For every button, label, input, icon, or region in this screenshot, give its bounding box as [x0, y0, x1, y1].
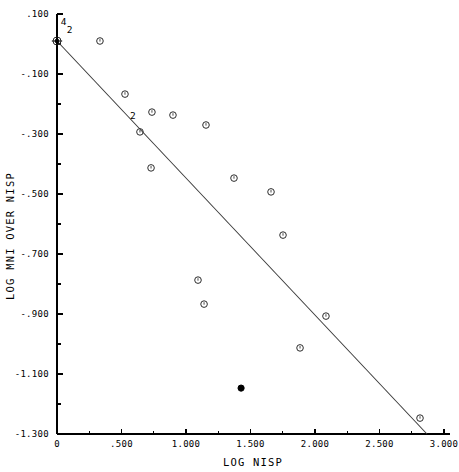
overlap-count-labels: 422 [61, 16, 136, 121]
x-axis-tick-label: 2.000 [301, 439, 330, 449]
y-axis-tick-label: -.900 [20, 309, 49, 319]
x-axis-ticks [57, 429, 444, 435]
y-axis-tick-label: -1.300 [15, 429, 49, 439]
y-axis-tick-label: -.500 [20, 189, 49, 199]
overlap-count-label: 2 [130, 110, 136, 121]
y-axis-ticks [57, 14, 63, 434]
data-point-series [52, 36, 424, 422]
fit-line-segment [57, 41, 427, 434]
y-axis-tick-label: -.700 [20, 249, 49, 259]
x-axis-tick-label: 0 [54, 439, 60, 449]
x-axis-tick-label: 1.000 [172, 439, 201, 449]
y-axis-tick-label: -1.100 [15, 369, 49, 379]
axes [57, 14, 450, 434]
overlap-count-label: 2 [67, 24, 73, 35]
y-axis-title: LOG MNI OVER NISP [4, 172, 16, 300]
y-axis-tick-label: -.100 [20, 69, 49, 79]
y-axis-tick-label: .100 [26, 9, 49, 19]
y-axis-tick-label: -.300 [20, 129, 49, 139]
y-axis-tick-labels: .100-.100-.300-.500-.700-.900-1.100-1.30… [15, 9, 49, 439]
x-axis-tick-label: 1.500 [236, 439, 265, 449]
x-axis-tick-label: .500 [110, 439, 133, 449]
x-axis-tick-label: 3.000 [430, 439, 459, 449]
data-point-filled [238, 385, 244, 391]
regression-line [57, 41, 427, 434]
x-axis-tick-label: 2.500 [365, 439, 394, 449]
scatter-plot-figure: 0.5001.0001.5002.0002.5003.000 .100-.100… [0, 0, 459, 472]
x-axis-title: LOG NISP [223, 456, 283, 468]
x-axis-tick-labels: 0.5001.0001.5002.0002.5003.000 [54, 439, 458, 449]
chart-canvas: 0.5001.0001.5002.0002.5003.000 .100-.100… [0, 0, 459, 472]
